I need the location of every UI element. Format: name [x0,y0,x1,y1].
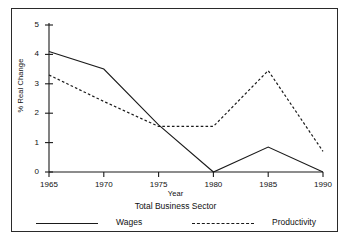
legend-label-wages: Wages [116,217,142,227]
y-axis-title: % Real Change [16,51,25,121]
chart-legend: Wages Productivity [12,215,339,233]
x-tick-label: 1980 [193,180,233,189]
plot-area: 012345 196519701975198019851990 % Real C… [12,9,339,233]
x-tick-label: 1975 [139,180,179,189]
x-tick-label: 1970 [84,180,124,189]
x-tick-label: 1985 [248,180,288,189]
legend-item-wages: Wages [36,215,196,233]
legend-line-sample-wages [36,223,98,224]
y-tick-label: 1 [19,138,39,147]
series-line-productivity [49,71,323,152]
legend-line-sample-productivity [192,223,254,224]
chart-title: Total Business Sector [12,201,339,211]
x-tick-label: 1965 [29,180,69,189]
legend-item-productivity: Productivity [192,215,342,233]
legend-label-productivity: Productivity [272,217,316,227]
chart-figure: 012345 196519701975198019851990 % Real C… [11,8,338,232]
data-series-group [49,51,323,172]
x-axis-title: Year [12,189,339,198]
x-tick-label: 1990 [303,180,343,189]
axes-group [45,23,323,177]
y-tick-label: 0 [19,167,39,176]
line-chart-svg [12,9,339,233]
series-line-wages [49,51,323,172]
y-tick-label: 5 [19,20,39,29]
